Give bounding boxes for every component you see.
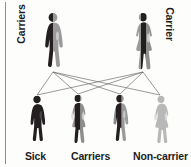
- line-mother-child1: [37, 72, 143, 95]
- child4-fill: [148, 95, 173, 147]
- child-1-figure-sick: [23, 95, 51, 147]
- child-label-non-carrier: Non-carrier: [133, 150, 188, 162]
- child-label-carriers: Carriers: [71, 150, 110, 162]
- father-right-half: [53, 12, 68, 74]
- child-3-figure-carrier: [106, 94, 134, 147]
- mother-left-half: [128, 12, 141, 74]
- father-left-half: [38, 12, 53, 74]
- child-label-sick: Sick: [25, 150, 46, 162]
- child2-left-half: [65, 94, 74, 147]
- line-father-child1: [37, 72, 53, 95]
- parent-father-figure: [38, 12, 68, 74]
- child2-dark-stripe: [75, 94, 81, 147]
- inheritance-diagram: Carriers Carrier: [0, 0, 191, 167]
- parent-mother-figure: [128, 12, 158, 74]
- mother-right-half: [146, 12, 158, 74]
- child1-fill: [24, 95, 49, 147]
- child2-right-half: [81, 94, 91, 147]
- child3-right-half: [122, 94, 133, 147]
- parent-label-carrier-right: Carrier: [164, 0, 176, 51]
- child-4-figure-non-carrier: [147, 95, 175, 147]
- child3-left-edge: [107, 94, 116, 147]
- line-father-child4: [53, 72, 160, 95]
- child3-left-half: [116, 94, 122, 147]
- parent-label-carriers-left: Carriers: [15, 0, 27, 51]
- child-2-figure-carrier: [64, 94, 92, 147]
- mother-dark-stripe: [141, 12, 146, 74]
